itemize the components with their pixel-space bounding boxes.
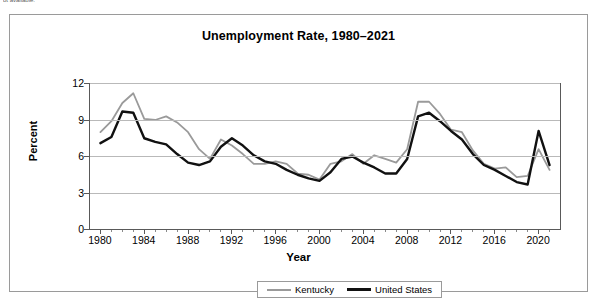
- x-tick-label: 2000: [299, 234, 339, 246]
- x-tick-minor: [133, 230, 134, 232]
- gridline-y: [90, 120, 560, 121]
- legend-line-icon: [267, 289, 291, 291]
- x-tick-label: 1988: [168, 234, 208, 246]
- y-tick-label: 12: [62, 77, 84, 89]
- y-tick-mark: [84, 83, 89, 84]
- legend-item-kentucky[interactable]: Kentucky: [267, 284, 334, 295]
- x-tick-minor: [429, 230, 430, 232]
- chart-title: Unemployment Rate, 1980–2021: [10, 29, 587, 43]
- x-tick-label: 2004: [343, 234, 383, 246]
- x-tick-minor: [166, 230, 167, 232]
- y-axis-tick-labels: 036912: [60, 83, 84, 230]
- legend-label: United States: [375, 284, 432, 295]
- x-tick-label: 1992: [211, 234, 251, 246]
- x-tick-minor: [308, 230, 309, 232]
- x-tick-minor: [242, 230, 243, 232]
- legend-label: Kentucky: [295, 284, 334, 295]
- gridline-y: [90, 193, 560, 194]
- y-tick-label: 6: [62, 150, 84, 162]
- x-tick-minor: [418, 230, 419, 232]
- x-tick-minor: [155, 230, 156, 232]
- x-tick-minor: [199, 230, 200, 232]
- x-tick-mark: [100, 230, 101, 234]
- plot-border-bottom: [89, 229, 561, 230]
- x-tick-minor: [374, 230, 375, 232]
- x-tick-minor: [483, 230, 484, 232]
- x-axis-title: Year: [10, 251, 587, 263]
- x-tick-mark: [363, 230, 364, 234]
- x-tick-mark: [450, 230, 451, 234]
- series-line-united-states: [100, 111, 549, 184]
- gridline-y: [90, 156, 560, 157]
- x-tick-minor: [461, 230, 462, 232]
- y-tick-mark: [84, 229, 89, 230]
- x-tick-mark: [407, 230, 408, 234]
- x-tick-label: 1984: [124, 234, 164, 246]
- x-tick-minor: [396, 230, 397, 232]
- x-tick-minor: [111, 230, 112, 232]
- x-tick-label: 1980: [80, 234, 120, 246]
- x-axis-tick-labels: 1980198419881992199620002004200820122016…: [89, 234, 561, 248]
- x-tick-minor: [286, 230, 287, 232]
- x-tick-minor: [341, 230, 342, 232]
- x-tick-minor: [385, 230, 386, 232]
- x-tick-mark: [538, 230, 539, 234]
- gridline-y: [90, 83, 560, 84]
- x-tick-minor: [297, 230, 298, 232]
- x-tick-mark: [275, 230, 276, 234]
- x-tick-mark: [319, 230, 320, 234]
- y-tick-mark: [84, 156, 89, 157]
- legend-item-us[interactable]: United States: [347, 284, 432, 295]
- y-axis-title: Percent: [27, 96, 39, 186]
- x-tick-minor: [516, 230, 517, 232]
- x-tick-minor: [177, 230, 178, 232]
- y-tick-mark: [84, 193, 89, 194]
- x-tick-minor: [253, 230, 254, 232]
- x-tick-mark: [494, 230, 495, 234]
- x-tick-mark: [144, 230, 145, 234]
- y-tick-label: 9: [62, 114, 84, 126]
- x-tick-label: 2016: [474, 234, 514, 246]
- y-tick-label: 3: [62, 187, 84, 199]
- x-tick-minor: [527, 230, 528, 232]
- x-tick-label: 2020: [518, 234, 558, 246]
- footnote-text: ot available.: [3, 0, 123, 4]
- plot-border-right: [560, 83, 561, 230]
- x-tick-label: 2008: [387, 234, 427, 246]
- x-tick-label: 1996: [255, 234, 295, 246]
- x-tick-mark: [231, 230, 232, 234]
- x-tick-minor: [352, 230, 353, 232]
- x-tick-minor: [209, 230, 210, 232]
- x-tick-minor: [122, 230, 123, 232]
- chart-container: Unemployment Rate, 1980–2021 Percent 036…: [9, 14, 588, 292]
- legend-line-icon: [347, 288, 371, 291]
- y-tick-mark: [84, 120, 89, 121]
- x-tick-mark: [188, 230, 189, 234]
- x-tick-minor: [220, 230, 221, 232]
- x-tick-minor: [505, 230, 506, 232]
- x-tick-minor: [330, 230, 331, 232]
- x-tick-minor: [264, 230, 265, 232]
- series-line-kentucky: [100, 93, 549, 179]
- page-footnote-fragment: ot available.: [3, 0, 123, 9]
- x-tick-minor: [440, 230, 441, 232]
- x-tick-label: 2012: [430, 234, 470, 246]
- chart-legend: KentuckyUnited States: [257, 281, 442, 298]
- plot-area: [89, 83, 560, 229]
- x-tick-minor: [549, 230, 550, 232]
- x-tick-minor: [472, 230, 473, 232]
